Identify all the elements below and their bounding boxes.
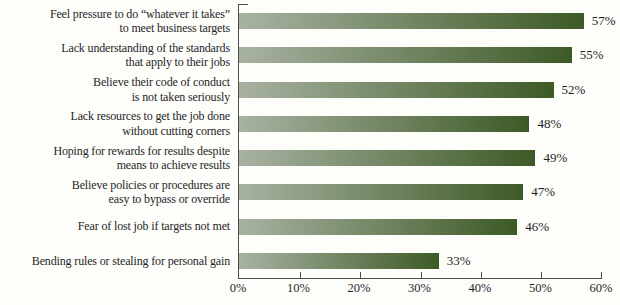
bar-area: 33% bbox=[239, 253, 602, 269]
bar-chart: Feel pressure to do “whatever it takes” … bbox=[0, 0, 620, 305]
value-label: 48% bbox=[537, 116, 561, 132]
bar-area: 49% bbox=[239, 150, 602, 166]
value-label: 33% bbox=[447, 253, 471, 269]
chart-row: Lack understanding of the standards that… bbox=[0, 38, 620, 72]
chart-row: Feel pressure to do “whatever it takes” … bbox=[0, 4, 620, 38]
bar-area: 55% bbox=[239, 47, 602, 63]
chart-row: Believe their code of conduct is not tak… bbox=[0, 73, 620, 107]
bar bbox=[239, 253, 439, 269]
tick-label: 20% bbox=[348, 281, 371, 296]
value-label: 46% bbox=[525, 219, 549, 235]
bar-area: 48% bbox=[239, 116, 602, 132]
bar bbox=[239, 184, 523, 200]
y-axis-top-cap bbox=[239, 4, 248, 5]
bar-area: 47% bbox=[239, 184, 602, 200]
tick-label: 10% bbox=[287, 281, 310, 296]
category-label: Lack resources to get the job done witho… bbox=[0, 109, 234, 138]
category-label: Fear of lost job if targets not met bbox=[0, 219, 234, 234]
category-label: Believe policies or procedures are easy … bbox=[0, 178, 234, 207]
bar bbox=[239, 82, 554, 98]
tick-label: 0% bbox=[230, 281, 247, 296]
category-label: Believe their code of conduct is not tak… bbox=[0, 75, 234, 104]
tick-label: 40% bbox=[469, 281, 492, 296]
bar bbox=[239, 47, 572, 63]
chart-row: Bending rules or stealing for personal g… bbox=[0, 244, 620, 278]
category-label: Bending rules or stealing for personal g… bbox=[0, 254, 234, 269]
bar bbox=[239, 116, 529, 132]
bar-area: 52% bbox=[239, 82, 602, 98]
category-label: Feel pressure to do “whatever it takes” … bbox=[0, 7, 234, 36]
chart-row: Fear of lost job if targets not met 46% bbox=[0, 210, 620, 244]
value-label: 55% bbox=[580, 47, 604, 63]
value-label: 52% bbox=[562, 82, 586, 98]
chart-rows: Feel pressure to do “whatever it takes” … bbox=[0, 4, 620, 278]
chart-row: Believe policies or procedures are easy … bbox=[0, 175, 620, 209]
tick-label: 50% bbox=[529, 281, 552, 296]
bar bbox=[239, 219, 517, 235]
value-label: 47% bbox=[531, 184, 555, 200]
bar-area: 57% bbox=[239, 13, 602, 29]
bar bbox=[239, 13, 584, 29]
category-label: Hoping for rewards for results despite m… bbox=[0, 144, 234, 173]
value-label: 57% bbox=[592, 13, 616, 29]
chart-row: Hoping for rewards for results despite m… bbox=[0, 141, 620, 175]
tick-label: 30% bbox=[408, 281, 431, 296]
tick-label: 60% bbox=[590, 281, 613, 296]
bar-area: 46% bbox=[239, 219, 602, 235]
value-label: 49% bbox=[543, 150, 567, 166]
x-axis-tick-labels: 0% 10% 20% 30% 40% 50% 60% bbox=[238, 281, 601, 298]
bar bbox=[239, 150, 535, 166]
chart-row: Lack resources to get the job done witho… bbox=[0, 107, 620, 141]
category-label: Lack understanding of the standards that… bbox=[0, 41, 234, 70]
